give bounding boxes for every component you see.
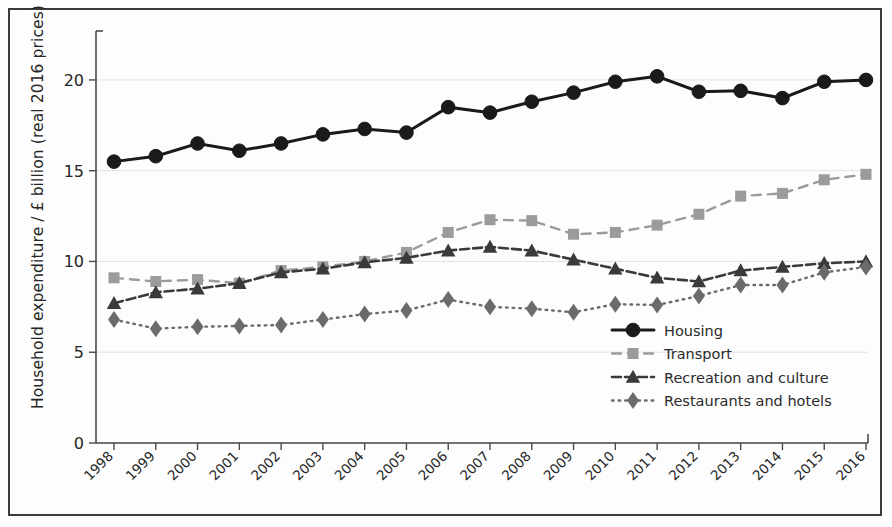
x-axis-ticks: 1998199920002001200220032004200520062007…	[81, 443, 869, 483]
legend-item-recreation-and-culture[interactable]: Recreation and culture	[612, 370, 829, 386]
x-tick-label: 2004	[331, 448, 367, 484]
x-tick-label: 2003	[289, 448, 325, 484]
line-chart-plot: 05101520 1998199920002001200220032004200…	[0, 0, 892, 527]
y-axis-ticks: 05101520	[64, 71, 96, 453]
data-point	[233, 144, 247, 158]
data-point	[735, 191, 746, 202]
data-series-layer	[107, 69, 873, 337]
data-point	[149, 149, 163, 163]
legend-marker	[626, 323, 640, 337]
data-point	[777, 188, 788, 199]
data-point	[526, 215, 537, 226]
data-point	[610, 227, 621, 238]
data-point	[484, 298, 496, 315]
chart-legend: HousingTransportRecreation and cultureRe…	[612, 323, 832, 410]
legend-item-housing[interactable]: Housing	[612, 323, 723, 339]
data-point	[442, 291, 454, 308]
x-tick-label: 2006	[415, 448, 451, 484]
y-tick-label: 15	[64, 162, 84, 181]
x-tick-label: 2001	[206, 448, 242, 484]
data-point	[776, 91, 790, 105]
data-point	[400, 126, 414, 140]
x-tick-label: 2013	[707, 448, 743, 484]
legend-label: Transport	[663, 346, 732, 362]
legend-item-transport[interactable]: Transport	[612, 346, 732, 362]
data-point	[192, 318, 204, 335]
x-tick-label: 2008	[498, 448, 534, 484]
x-tick-label: 2015	[791, 448, 827, 484]
data-point	[692, 85, 706, 99]
data-point	[776, 277, 788, 294]
x-tick-label: 2016	[833, 448, 869, 484]
data-point	[400, 302, 412, 319]
data-point	[567, 86, 581, 100]
legend-marker	[627, 392, 639, 409]
data-point	[233, 317, 245, 334]
x-tick-label: 2009	[540, 448, 576, 484]
data-point	[358, 122, 372, 136]
data-point	[734, 84, 748, 98]
data-point	[651, 297, 663, 314]
data-point	[568, 229, 579, 240]
y-tick-label: 0	[74, 434, 84, 453]
legend-label: Recreation and culture	[664, 370, 829, 386]
data-point	[652, 220, 663, 231]
x-tick-label: 2007	[457, 448, 493, 484]
data-point	[317, 311, 329, 328]
data-point	[485, 214, 496, 225]
data-point	[859, 73, 873, 87]
data-point	[526, 300, 538, 317]
series-housing	[107, 69, 873, 168]
data-point	[108, 311, 120, 328]
x-tick-label: 2005	[373, 448, 409, 484]
gridlines	[96, 80, 868, 443]
y-tick-label: 5	[74, 343, 84, 362]
series-line	[114, 247, 866, 303]
legend-label: Restaurants and hotels	[664, 393, 832, 409]
x-tick-label: 2011	[624, 448, 660, 484]
legend-label: Housing	[664, 323, 723, 339]
chart-figure: Household expenditure / £ billion (real …	[0, 0, 892, 527]
data-point	[650, 69, 664, 83]
data-point	[568, 304, 580, 321]
data-point	[443, 227, 454, 238]
data-point	[109, 272, 120, 283]
series-transport	[109, 169, 872, 289]
data-point	[693, 287, 705, 304]
data-point	[107, 155, 121, 169]
data-point	[441, 100, 455, 114]
x-tick-label: 2014	[749, 448, 785, 484]
data-point	[861, 169, 872, 180]
data-point	[817, 75, 831, 89]
data-point	[191, 137, 205, 151]
data-point	[609, 296, 621, 313]
x-tick-label: 2010	[582, 448, 618, 484]
data-point	[275, 317, 287, 334]
data-point	[609, 75, 623, 89]
x-tick-label: 1999	[122, 448, 158, 484]
x-tick-label: 2012	[665, 448, 701, 484]
data-point	[693, 209, 704, 220]
data-point	[483, 106, 497, 120]
x-tick-label: 1998	[81, 448, 117, 484]
x-tick-label: 2000	[164, 448, 200, 484]
data-point	[735, 277, 747, 294]
y-tick-label: 20	[64, 71, 84, 90]
legend-item-restaurants-and-hotels[interactable]: Restaurants and hotels	[612, 392, 832, 409]
data-point	[150, 320, 162, 337]
x-tick-label: 2002	[248, 448, 284, 484]
series-line	[114, 174, 866, 283]
data-point	[274, 137, 288, 151]
data-point	[819, 174, 830, 185]
data-point	[359, 306, 371, 323]
data-point	[316, 128, 330, 142]
y-tick-label: 10	[64, 252, 84, 271]
data-point	[525, 95, 539, 109]
legend-marker	[628, 348, 639, 359]
series-line	[114, 267, 866, 329]
